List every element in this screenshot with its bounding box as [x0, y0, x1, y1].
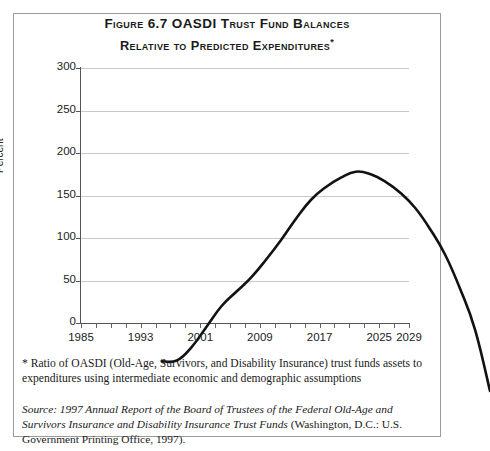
- y-tick-mark-100: [76, 238, 80, 239]
- title-line-2-text: Relative to Predicted Expenditures: [120, 38, 330, 53]
- gridline-300: [81, 68, 409, 69]
- title-line-2: Relative to Predicted Expenditures*: [14, 33, 440, 55]
- y-tick-mark-250: [76, 111, 80, 112]
- x-tick-mark-2003: [215, 324, 216, 328]
- x-tick-mark-2001: [200, 324, 201, 328]
- y-tick-label-100: 100: [36, 230, 76, 242]
- x-axis-tick-labels: 1985199320012009201720252029: [0, 331, 455, 347]
- title-footnote-marker: *: [330, 37, 334, 47]
- gridline-250: [81, 111, 409, 112]
- x-tick-mark-2011: [275, 324, 276, 328]
- y-tick-label-250: 250: [36, 103, 76, 115]
- x-tick-mark-1997: [170, 324, 171, 328]
- x-axis-tick-marks: [81, 324, 409, 329]
- x-tick-mark-2029: [409, 324, 410, 328]
- x-tick-mark-2027: [394, 324, 395, 328]
- x-tick-mark-2005: [230, 324, 231, 328]
- x-tick-mark-1991: [126, 324, 127, 328]
- y-tick-label-200: 200: [36, 145, 76, 157]
- y-tick-label-150: 150: [36, 188, 76, 200]
- y-tick-mark-300: [76, 68, 80, 69]
- figure-title: Figure 6.7 OASDI Trust Fund Balances Rel…: [14, 14, 440, 55]
- x-tick-mark-2007: [245, 324, 246, 328]
- x-tick-mark-2025: [379, 324, 380, 328]
- title-line-1: Figure 6.7 OASDI Trust Fund Balances: [14, 14, 440, 33]
- plot-area: [81, 68, 409, 323]
- y-tick-label-50: 50: [36, 273, 76, 285]
- x-tick-mark-2009: [260, 324, 261, 328]
- x-tick-label-2029: 2029: [396, 331, 422, 343]
- x-tick-mark-1995: [156, 324, 157, 328]
- x-tick-label-2017: 2017: [307, 331, 333, 343]
- x-tick-mark-1989: [111, 324, 112, 328]
- x-tick-mark-1993: [141, 324, 142, 328]
- x-tick-label-1985: 1985: [68, 331, 94, 343]
- y-tick-mark-200: [76, 153, 80, 154]
- x-tick-mark-2023: [364, 324, 365, 328]
- figure-source-note: Source: 1997 Annual Report of the Board …: [22, 402, 437, 448]
- source-label: Source:: [22, 403, 57, 415]
- x-tick-mark-1999: [185, 324, 186, 328]
- x-tick-mark-1985: [81, 324, 82, 328]
- x-tick-label-2001: 2001: [187, 331, 213, 343]
- y-tick-mark-150: [76, 196, 80, 197]
- x-tick-mark-2019: [334, 324, 335, 328]
- x-tick-label-2025: 2025: [366, 331, 392, 343]
- y-tick-label-0: 0: [36, 315, 76, 327]
- data-line-series: [162, 136, 490, 392]
- y-tick-mark-50: [76, 281, 80, 282]
- figure-footnote: * Ratio of OASDI (Old-Age, Survivors, an…: [22, 356, 434, 386]
- x-tick-mark-2015: [305, 324, 306, 328]
- x-tick-label-2009: 2009: [247, 331, 273, 343]
- y-tick-label-300: 300: [36, 60, 76, 72]
- x-tick-mark-2017: [320, 324, 321, 328]
- x-tick-label-1993: 1993: [128, 331, 154, 343]
- x-tick-mark-2013: [290, 324, 291, 328]
- x-tick-mark-2021: [349, 324, 350, 328]
- y-tick-mark-0: [76, 323, 80, 324]
- y-axis-title: Percent: [0, 139, 5, 173]
- x-tick-mark-1987: [96, 324, 97, 328]
- y-axis-tick-labels: 050100150200250300: [32, 68, 76, 323]
